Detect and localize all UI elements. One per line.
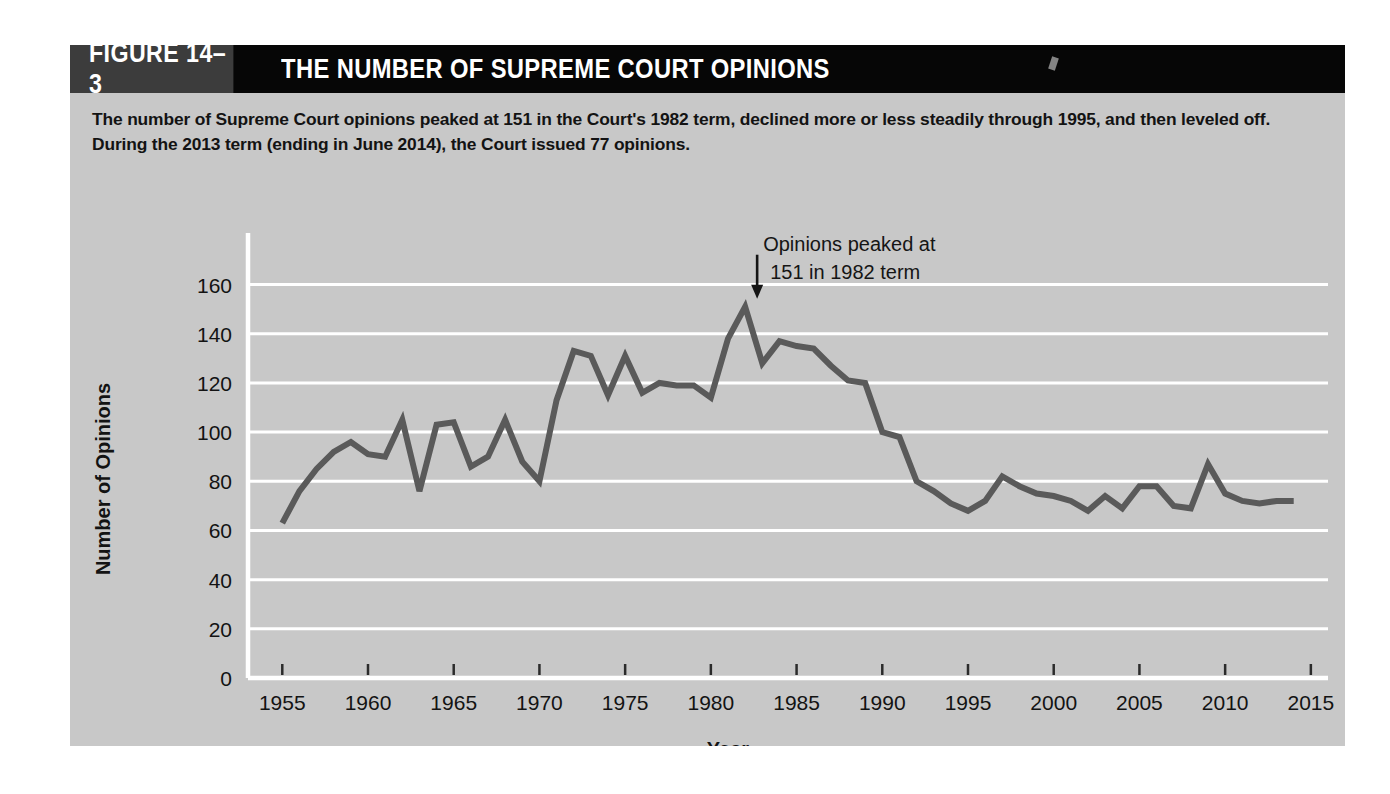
x-tick-label: 1960 — [345, 691, 392, 714]
y-tick-label: 100 — [197, 421, 232, 444]
line-chart: 0204060801001201401601955196019651970197… — [70, 170, 1345, 746]
chart-canvas: 0204060801001201401601955196019651970197… — [70, 170, 1345, 746]
y-axis-title: Number of Opinions — [92, 383, 114, 575]
x-tick-label: 2005 — [1116, 691, 1163, 714]
x-tick-label: 1985 — [773, 691, 820, 714]
y-tick-label: 160 — [197, 274, 232, 297]
x-tick-label: 1995 — [945, 691, 992, 714]
x-axis-title: Year — [707, 738, 749, 746]
x-tick-label: 2015 — [1287, 691, 1334, 714]
x-tick-label: 2000 — [1030, 691, 1077, 714]
figure-panel: FIGURE 14–3 THE NUMBER OF SUPREME COURT … — [70, 45, 1345, 746]
figure-header-bar: FIGURE 14–3 THE NUMBER OF SUPREME COURT … — [70, 45, 1345, 93]
x-tick-label: 1965 — [430, 691, 477, 714]
figure-title: THE NUMBER OF SUPREME COURT OPINIONS — [260, 45, 1215, 93]
x-tick-label: 1970 — [516, 691, 563, 714]
x-tick-label: 1955 — [259, 691, 306, 714]
annotation-line-1: Opinions peaked at — [763, 233, 936, 255]
x-tick-label: 1990 — [859, 691, 906, 714]
y-tick-label: 60 — [209, 519, 232, 542]
figure-caption: The number of Supreme Court opinions pea… — [70, 93, 1345, 156]
plot-background — [70, 170, 1345, 746]
y-tick-label: 20 — [209, 618, 232, 641]
y-tick-label: 140 — [197, 323, 232, 346]
x-tick-label: 2010 — [1202, 691, 1249, 714]
x-tick-label: 1975 — [602, 691, 649, 714]
y-tick-label: 80 — [209, 470, 232, 493]
y-tick-label: 120 — [197, 372, 232, 395]
x-tick-label: 1980 — [687, 691, 734, 714]
annotation-line-2: 151 in 1982 term — [770, 261, 920, 283]
y-tick-label: 0 — [220, 667, 232, 690]
y-tick-label: 40 — [209, 569, 232, 592]
figure-number-label: FIGURE 14–3 — [70, 45, 233, 93]
